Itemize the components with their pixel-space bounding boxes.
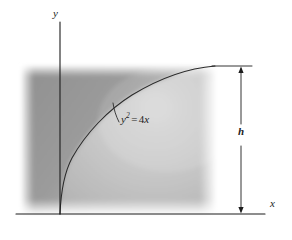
- height-dimension-label: h: [238, 126, 244, 137]
- dimension-arrow-top: [238, 67, 243, 74]
- figure-container: y x h y2=4x: [0, 0, 292, 240]
- equation-operator: =: [130, 113, 139, 125]
- dimension-arrow-bottom: [238, 207, 243, 214]
- shaded-region-group: [22, 66, 238, 214]
- y-axis-label: y: [53, 8, 58, 19]
- equation-variable: x: [144, 113, 149, 125]
- region-vertical-fade: [22, 66, 215, 214]
- parabola-equation-label: y2=4x: [121, 114, 149, 125]
- x-axis-label: x: [270, 198, 275, 209]
